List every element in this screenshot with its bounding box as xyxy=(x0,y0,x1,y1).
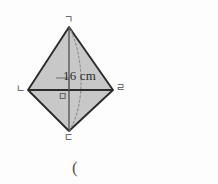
measurement-label: 16 cm xyxy=(63,69,96,82)
vertex-label-center: ㅁ xyxy=(58,92,67,102)
vertex-label-apex: ㄱ xyxy=(64,15,73,25)
vertex-label-left: ㄴ xyxy=(16,84,25,94)
geometry-figure: ㄱ ㄴ ㄹ ㄷ ㅁ 16 cm ( xyxy=(0,0,218,184)
vertex-label-right: ㄹ xyxy=(116,83,125,93)
figure-canvas xyxy=(0,0,218,184)
vertex-label-bottom: ㄷ xyxy=(64,133,73,143)
trailing-parenthesis: ( xyxy=(72,159,78,176)
